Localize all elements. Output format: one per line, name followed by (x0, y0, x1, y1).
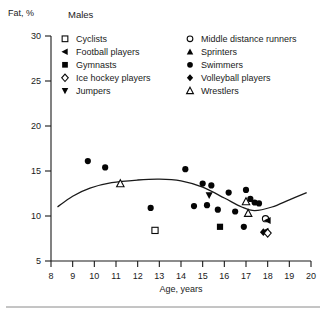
marker-filled-square (217, 224, 223, 230)
marker-open-circle (187, 36, 193, 42)
x-tick-label: 18 (263, 271, 273, 281)
x-tick-label: 8 (48, 271, 53, 281)
x-tick-label: 11 (111, 271, 120, 281)
marker-filled-circle (226, 190, 232, 196)
x-tick-label: 15 (198, 271, 208, 281)
x-axis-title: Age, years (159, 284, 203, 294)
x-tick-label: 20 (306, 271, 316, 281)
marker-filled-circle (243, 187, 249, 193)
marker-filled-circle (102, 164, 108, 170)
legend-title: Males (68, 9, 94, 20)
legend-label: Football players (76, 47, 140, 57)
marker-filled-circle (232, 208, 238, 214)
x-tick-label: 12 (133, 271, 143, 281)
x-tick-label: 10 (89, 271, 99, 281)
y-tick-label: 20 (31, 121, 41, 131)
marker-filled-circle (208, 182, 214, 188)
marker-filled-circle (204, 202, 210, 208)
series-cyclists (152, 227, 158, 233)
y-tick-label: 5 (36, 256, 41, 266)
x-tick-label: 16 (219, 271, 229, 281)
marker-filled-square (62, 62, 68, 68)
marker-filled-circle (215, 207, 221, 213)
marker-filled-circle (200, 181, 206, 187)
y-tick-label: 10 (31, 211, 41, 221)
legend-label: Wrestlers (201, 86, 239, 96)
marker-filled-circle (148, 205, 154, 211)
series-gymnasts (217, 224, 223, 230)
legend-label: Jumpers (76, 86, 111, 96)
legend-label: Swimmers (201, 60, 243, 70)
y-tick-label: 15 (31, 166, 41, 176)
marker-open-square (62, 36, 68, 42)
marker-filled-circle (182, 166, 188, 172)
marker-filled-circle (191, 203, 197, 209)
marker-filled-circle (256, 200, 262, 206)
y-tick-label: 30 (31, 31, 41, 41)
y-tick-label: 25 (31, 76, 41, 86)
chart-figure: Fat, % Males CyclistsFootball playersGym… (0, 0, 326, 318)
scatter-plot: Fat, % Males CyclistsFootball playersGym… (0, 0, 326, 318)
legend-label: Gymnasts (76, 60, 117, 70)
marker-filled-circle (85, 158, 91, 164)
x-tick-label: 14 (176, 271, 186, 281)
y-axis-title: Fat, % (8, 8, 34, 18)
legend-label: Cyclists (76, 34, 107, 44)
legend-label: Sprinters (201, 47, 238, 57)
marker-filled-circle (187, 62, 193, 68)
x-tick-label: 9 (70, 271, 75, 281)
x-tick-label: 17 (241, 271, 251, 281)
marker-filled-circle (241, 224, 247, 230)
x-tick-label: 19 (284, 271, 294, 281)
legend-label: Volleyball players (201, 73, 271, 83)
legend-label: Middle distance runners (201, 34, 297, 44)
marker-open-square (152, 227, 158, 233)
legend-label: Ice hockey players (76, 73, 151, 83)
x-tick-label: 13 (154, 271, 164, 281)
